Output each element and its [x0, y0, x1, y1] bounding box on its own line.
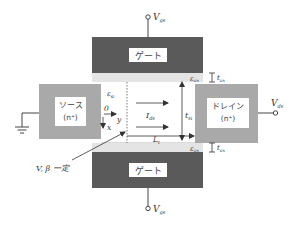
- dg-mosfet-diagram: Vgs ゲート εox tox ソース (n⁺) ドレイン (n⁺) Vds ε…: [0, 0, 292, 226]
- source-label: ソース: [59, 101, 83, 110]
- top-gate-terminal: [146, 15, 150, 37]
- bottom-gate-terminal-label: Vgs: [153, 204, 166, 216]
- drain-terminal-label: Vds: [271, 98, 284, 109]
- drain-terminal: [258, 111, 278, 115]
- ground-icon: [15, 113, 39, 133]
- bottom-gate-terminal: [146, 188, 150, 211]
- top-oxide: [92, 73, 203, 82]
- top-gate-terminal-label: Vgs: [153, 12, 166, 24]
- bottom-tox-label: tox: [217, 144, 226, 153]
- bottom-tox-dimension: [209, 143, 215, 152]
- y-axis-label: y: [116, 115, 122, 124]
- origin-label: 0: [104, 104, 109, 113]
- drain-doping: (n⁺): [221, 114, 236, 123]
- drain-label: ドレイン: [212, 102, 244, 111]
- top-tox-dimension: [209, 73, 215, 82]
- top-tox-label: tox: [217, 74, 226, 83]
- bottom-oxide: [92, 143, 203, 152]
- bottom-gate-label: ゲート: [135, 165, 162, 176]
- top-gate-label: ゲート: [135, 50, 162, 61]
- annotation-label: V, β 一定: [36, 164, 70, 173]
- source-doping: (n⁺): [63, 113, 78, 122]
